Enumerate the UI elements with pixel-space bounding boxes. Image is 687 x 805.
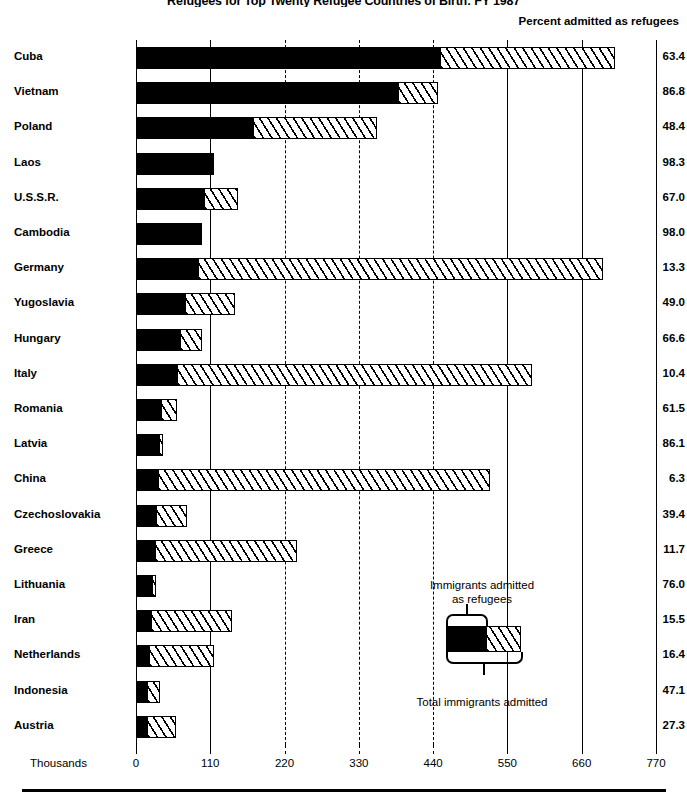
stacked-bar [136, 258, 603, 280]
category-label: Iran [14, 613, 132, 625]
bar-segment-refugees [136, 223, 200, 245]
percent-value: 63.4 [648, 50, 685, 62]
category-label: Germany [14, 261, 132, 273]
category-label: Greece [14, 543, 132, 555]
category-label: Vietnam [14, 85, 132, 97]
chart-title: Refugees for Top Twenty Refugee Countrie… [0, 0, 687, 7]
x-tick-550 [507, 745, 508, 754]
stacked-bar [136, 153, 213, 175]
bar-row [136, 75, 656, 110]
bar-row [136, 216, 656, 251]
category-label: Austria [14, 719, 132, 731]
category-label: Hungary [14, 332, 132, 344]
stacked-bar [136, 293, 235, 315]
bar-segment-nonrefugees [185, 293, 236, 315]
category-label: U.S.S.R. [14, 191, 132, 203]
percent-value: 39.4 [648, 508, 685, 520]
percent-value: 86.8 [648, 85, 685, 97]
x-tick-770 [656, 745, 657, 754]
stacked-bar [136, 329, 202, 351]
percent-value: 10.4 [648, 367, 685, 379]
category-label: China [14, 472, 132, 484]
percent-value: 61.5 [648, 402, 685, 414]
category-label: Cuba [14, 50, 132, 62]
x-tick-220 [285, 745, 286, 754]
percent-value: 76.0 [648, 578, 685, 590]
category-label: Italy [14, 367, 132, 379]
legend-refugees-label: Immigrants admitted as refugees [362, 578, 602, 606]
stacked-bar [136, 399, 177, 421]
legend-top-brace [446, 614, 488, 626]
bar-segment-nonrefugees [398, 82, 438, 104]
stacked-bar [136, 610, 232, 632]
bar-row [136, 498, 656, 533]
legend-refugees-label-line1: Immigrants admitted [430, 579, 534, 591]
bar-row [136, 392, 656, 427]
x-tick-label: 330 [349, 757, 368, 769]
x-tick-label: 110 [201, 757, 219, 769]
percent-value: 13.3 [648, 261, 685, 273]
percent-value: 86.1 [648, 437, 685, 449]
bar-row [136, 357, 656, 392]
percent-value: 98.0 [648, 226, 685, 238]
bar-segment-nonrefugees [151, 610, 232, 632]
bar-row [136, 40, 656, 75]
bar-segment-nonrefugees [161, 399, 177, 421]
stacked-bar [136, 681, 160, 703]
category-label: Laos [14, 156, 132, 168]
percent-value: 11.7 [648, 543, 685, 555]
bar-segment-nonrefugees [158, 469, 490, 491]
bar-segment-nonrefugees [177, 364, 532, 386]
stacked-bar [136, 223, 202, 245]
x-tick-660 [582, 745, 583, 754]
bar-segment-refugees [136, 82, 398, 104]
bar-segment-nonrefugees [204, 188, 238, 210]
x-tick-110 [210, 745, 211, 754]
percent-value: 6.3 [648, 472, 685, 484]
x-tick-label: 550 [498, 757, 517, 769]
bar-segment-refugees [136, 610, 151, 632]
bar-segment-nonrefugees [147, 681, 160, 703]
bar-row [136, 286, 656, 321]
x-tick-label: 220 [275, 757, 294, 769]
bar-row [136, 181, 656, 216]
stacked-bar [136, 364, 532, 386]
percent-value: 67.0 [648, 191, 685, 203]
stacked-bar [136, 645, 214, 667]
x-axis: 0110220330440550660770 [136, 745, 656, 746]
percent-value: 47.1 [648, 684, 685, 696]
bar-segment-refugees [136, 293, 185, 315]
x-tick-330 [359, 745, 360, 754]
percent-value: 48.4 [648, 120, 685, 132]
chart-container: Refugees for Top Twenty Refugee Countrie… [0, 0, 687, 805]
bar-segment-refugees [136, 575, 152, 597]
x-tick-0 [136, 745, 137, 754]
category-label: Lithuania [14, 578, 132, 590]
stacked-bar [136, 117, 377, 139]
legend-sample-bar [446, 626, 521, 652]
category-label: Yugoslavia [14, 296, 132, 308]
percent-value: 15.5 [648, 613, 685, 625]
category-label: Cambodia [14, 226, 132, 238]
bar-segment-nonrefugees [440, 47, 616, 69]
x-axis-units-label: Thousands [30, 757, 87, 769]
category-label: Latvia [14, 437, 132, 449]
legend-nonrefugee-swatch [486, 626, 521, 652]
bar-segment-refugees [136, 258, 198, 280]
bar-segment-refugees [136, 364, 177, 386]
category-label: Netherlands [14, 648, 132, 660]
x-tick-440 [433, 745, 434, 754]
bar-segment-nonrefugees [147, 716, 176, 738]
bar-segment-refugees [136, 188, 204, 210]
bar-segment-refugees [136, 505, 156, 527]
bar-segment-refugees [136, 329, 180, 351]
percent-value: 49.0 [648, 296, 685, 308]
bar-row [136, 110, 656, 145]
bar-row [136, 146, 656, 181]
bar-segment-refugees [136, 469, 158, 491]
bar-segment-nonrefugees [149, 645, 215, 667]
bar-row [136, 533, 656, 568]
stacked-bar [136, 540, 297, 562]
bar-row [136, 322, 656, 357]
bar-row [136, 251, 656, 286]
